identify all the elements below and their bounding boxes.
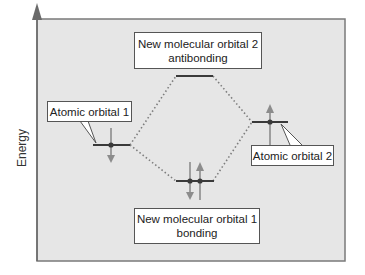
label-molecular-orbital-2-subtitle: antibonding (168, 51, 227, 65)
label-atomic-orbital-1-text: Atomic orbital 1 (50, 105, 129, 119)
label-atomic-orbital-2: Atomic orbital 2 (251, 145, 334, 166)
label-atomic-orbital-2-text: Atomic orbital 2 (253, 149, 332, 163)
label-molecular-orbital-1: New molecular orbital 1 bonding (134, 208, 260, 244)
electron-dot-icon (108, 142, 113, 147)
electron-dot-icon (187, 178, 192, 183)
label-atomic-orbital-1: Atomic orbital 1 (47, 101, 132, 122)
electron-dot-icon (197, 178, 202, 183)
label-molecular-orbital-2-title: New molecular orbital 2 (138, 37, 258, 51)
energy-axis-arrow-icon (32, 3, 42, 20)
energy-axis-label: Energy (15, 131, 31, 167)
label-molecular-orbital-2: New molecular orbital 2 antibonding (134, 32, 262, 69)
label-molecular-orbital-1-subtitle: bonding (177, 226, 218, 240)
electron-dot-icon (267, 119, 272, 124)
label-molecular-orbital-1-title: New molecular orbital 1 (137, 212, 257, 226)
